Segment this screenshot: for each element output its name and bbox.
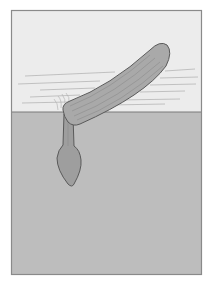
sand-region [12, 112, 201, 274]
clam-illustration [0, 0, 211, 283]
